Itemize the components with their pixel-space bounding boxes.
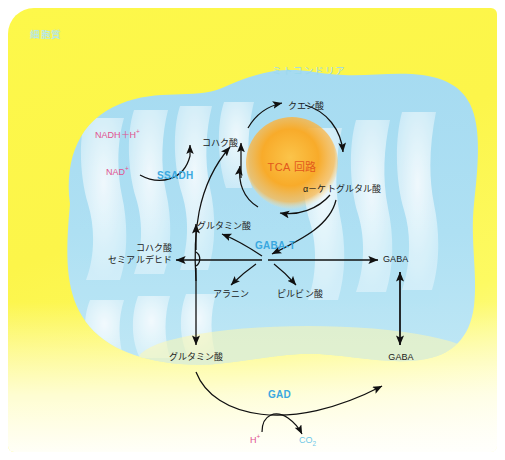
gaba-t-enzyme-label: GABA-T (255, 240, 296, 251)
alanine-label: アラニン (213, 289, 249, 301)
gaba-cyto-label: GABA (388, 352, 413, 364)
gad-enzyme-label: GAD (268, 389, 291, 400)
glutamate-mito-label: グルタミン酸 (197, 221, 252, 233)
ssadh-enzyme-label: SSADH (157, 170, 194, 181)
gaba-mito-label: GABA (383, 254, 408, 266)
mitochondrion-shape (8, 8, 497, 452)
pyruvate-label: ピルビン酸 (277, 289, 323, 301)
succinate-label: コハク酸 (202, 138, 238, 150)
nad-label: NAD+ (106, 167, 129, 177)
proton-label: H+ (250, 435, 260, 445)
alpha-ketoglutarate-label: α－ケトグルタル酸 (303, 184, 381, 196)
nadh-label: NADH＋H+ (95, 128, 140, 141)
cytoplasm-label: 細胞質 (30, 27, 62, 41)
mitochondria-label: ミトコンドリア (272, 63, 346, 77)
tca-cycle-label: TCA 回路 (268, 158, 317, 174)
co2-label: CO2 (299, 435, 316, 445)
citrate-label: クエン酸 (288, 101, 324, 113)
diagram-canvas: 細胞質 ミトコンドリア (0, 0, 505, 460)
succinic-semialdehyde-label: コハク酸 セミアルデヒド (108, 243, 172, 266)
glutamate-cyto-label: グルタミン酸 (169, 352, 224, 364)
